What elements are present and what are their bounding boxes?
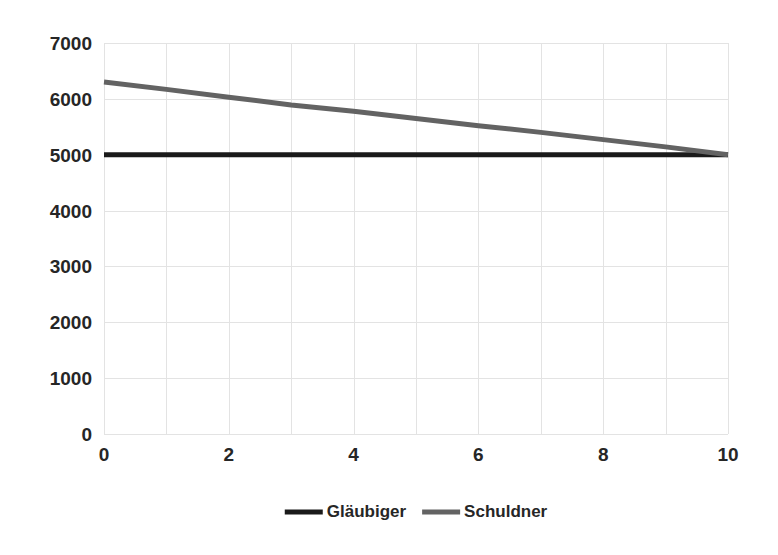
x-axis-tick-label: 10	[717, 444, 738, 465]
y-axis-tick-label: 5000	[50, 145, 92, 166]
y-axis-tick-label: 3000	[50, 256, 92, 277]
y-axis-tick-label: 2000	[50, 312, 92, 333]
x-axis-tick-label: 2	[224, 444, 235, 465]
y-axis-tick-label: 0	[81, 424, 92, 445]
legend-label: Schuldner	[464, 502, 548, 521]
y-axis-tick-label: 4000	[50, 201, 92, 222]
x-axis-tick-label: 6	[473, 444, 484, 465]
legend-label: Gläubiger	[327, 502, 407, 521]
y-axis-tick-label: 7000	[50, 33, 92, 54]
chart-canvas: 01000200030004000500060007000 0246810 Gl…	[0, 0, 778, 555]
y-axis-tick-label: 1000	[50, 368, 92, 389]
x-axis-tick-label: 4	[348, 444, 359, 465]
x-axis-tick-label: 0	[99, 444, 110, 465]
line-chart: 01000200030004000500060007000 0246810 Gl…	[0, 0, 778, 555]
y-axis-tick-label: 6000	[50, 89, 92, 110]
x-axis-tick-label: 8	[598, 444, 609, 465]
